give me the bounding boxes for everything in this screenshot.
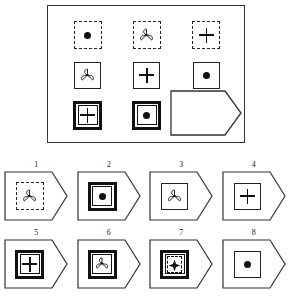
option-7-number: 7 (179, 228, 183, 239)
option-3-tile[interactable] (149, 171, 213, 221)
dashed-inner-box (167, 256, 182, 273)
thin-square-frame (234, 183, 261, 210)
option-1-content (16, 182, 44, 210)
option-6-content (88, 250, 117, 279)
trefoil-icon (166, 188, 183, 204)
thin-square-frame (161, 183, 188, 210)
matrix-cell-r1c3 (178, 16, 234, 54)
plus-icon (240, 189, 255, 204)
matrix-cell-r2c3 (178, 56, 234, 94)
dot-icon (84, 32, 91, 39)
option-3[interactable]: 3 (149, 160, 213, 221)
option-8[interactable]: 8 (222, 228, 286, 289)
option-4-content (234, 183, 261, 210)
option-5[interactable]: 5 (4, 228, 68, 289)
thick-square-frame (88, 250, 117, 279)
thick-frame-inner (78, 105, 98, 125)
options-panel: 1 (0, 160, 290, 296)
dot-icon (203, 72, 210, 79)
option-3-content (161, 183, 188, 210)
plus-icon (22, 257, 37, 272)
plus-icon (139, 68, 154, 83)
matrix-cell-r2c2 (119, 56, 175, 94)
option-5-number: 5 (34, 228, 38, 239)
dot-icon (143, 112, 150, 119)
option-7-content (160, 250, 189, 279)
matrix-panel (47, 5, 245, 143)
thin-square-frame (234, 251, 261, 278)
thick-frame-inner (20, 254, 40, 274)
option-1-number: 1 (34, 160, 38, 171)
thick-square-frame (73, 101, 102, 130)
dashed-square-frame (74, 21, 102, 49)
option-6-tile[interactable] (77, 239, 141, 289)
option-6[interactable]: 6 (77, 228, 141, 289)
option-6-number: 6 (107, 228, 111, 239)
dashed-square-frame (16, 182, 44, 210)
thick-frame-inner (165, 254, 185, 274)
thick-frame-inner (92, 254, 112, 274)
thick-square-frame (160, 250, 189, 279)
option-2-content (88, 182, 117, 211)
plus-icon (199, 28, 214, 43)
plus-icon (80, 108, 95, 123)
thin-square-frame (193, 62, 220, 89)
answer-slot[interactable] (170, 90, 242, 136)
trefoil-icon (94, 256, 111, 272)
thick-square-frame (88, 182, 117, 211)
thin-square-frame (74, 62, 101, 89)
thin-square-frame (133, 62, 160, 89)
star-icon (168, 258, 181, 271)
option-3-number: 3 (179, 160, 183, 171)
trefoil-icon (21, 188, 38, 204)
matrix-cell-r2c1 (60, 56, 116, 94)
option-1-tile[interactable] (4, 171, 68, 221)
option-2[interactable]: 2 (77, 160, 141, 221)
option-5-content (15, 250, 44, 279)
thick-frame-inner (92, 186, 112, 206)
option-7-tile[interactable] (149, 239, 213, 289)
option-8-content (234, 251, 261, 278)
thick-frame-inner (137, 105, 157, 125)
options-row-top: 1 (0, 160, 290, 228)
option-2-number: 2 (107, 160, 111, 171)
trefoil-icon (138, 27, 155, 43)
option-7[interactable]: 7 (149, 228, 213, 289)
options-row-bottom: 5 6 (0, 228, 290, 296)
matrix-cell-r1c1 (60, 16, 116, 54)
matrix-cell-r1c2 (119, 16, 175, 54)
option-8-tile[interactable] (222, 239, 286, 289)
option-1[interactable]: 1 (4, 160, 68, 221)
option-2-tile[interactable] (77, 171, 141, 221)
matrix-cell-r3c2 (119, 96, 175, 134)
option-5-tile[interactable] (4, 239, 68, 289)
trefoil-icon (79, 67, 96, 83)
thick-square-frame (132, 101, 161, 130)
dashed-square-frame (133, 21, 161, 49)
dot-icon (99, 193, 106, 200)
option-4-number: 4 (252, 160, 256, 171)
matrix-cell-r3c1 (60, 96, 116, 134)
dashed-square-frame (192, 21, 220, 49)
option-8-number: 8 (252, 228, 256, 239)
thick-square-frame (15, 250, 44, 279)
option-4[interactable]: 4 (222, 160, 286, 221)
dot-icon (244, 261, 251, 268)
option-4-tile[interactable] (222, 171, 286, 221)
